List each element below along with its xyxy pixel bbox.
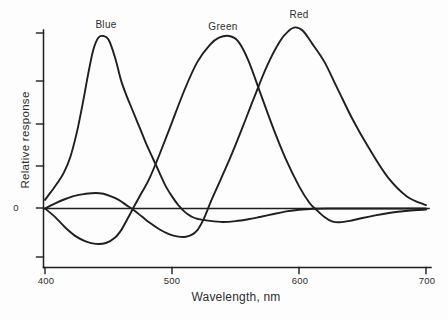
x-tick-label-500: 500 [164,276,180,286]
curve-label-blue: Blue [95,20,116,30]
curve-label-green: Green [208,22,237,32]
y-axis-title: Relative response [20,91,32,188]
x-axis-title: Wavelength, nm [191,291,280,303]
curve-label-red: Red [289,10,308,20]
curve-green [45,36,426,244]
y-zero-tick-label: 0 [13,203,18,213]
chart-canvas [0,0,448,320]
x-tick-label-400: 400 [38,276,54,286]
spectral-response-figure: Blue Green Red 0 400 500 600 700 Wavelen… [0,0,448,320]
x-tick-label-600: 600 [292,276,308,286]
x-tick-label-700: 700 [419,276,435,286]
curve-red [45,27,426,237]
